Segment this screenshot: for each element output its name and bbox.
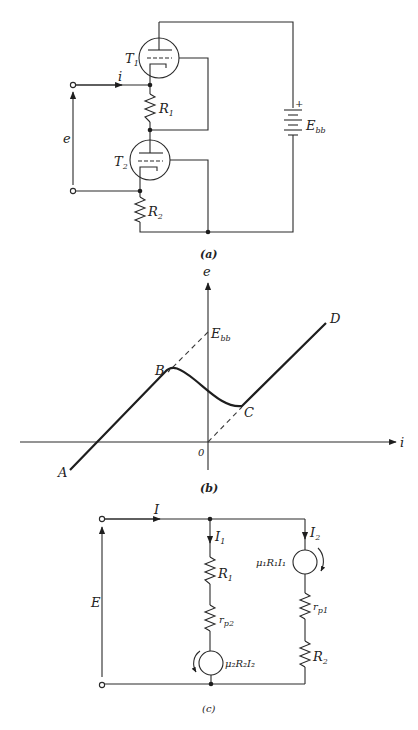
resistor-rp1-icon xyxy=(300,593,310,619)
caption-c: (c) xyxy=(202,703,216,714)
label-ebb: Ebb xyxy=(210,326,231,343)
label-t2: T2 xyxy=(114,154,128,171)
caption-b: (b) xyxy=(200,482,218,495)
junction-node xyxy=(148,83,153,88)
dependent-source-2-icon xyxy=(199,651,223,675)
label-origin: 0 xyxy=(198,447,205,458)
resistor-r2-icon xyxy=(135,197,145,222)
label-current-i: i xyxy=(118,69,122,84)
label-rp1: rp1 xyxy=(313,601,328,615)
vacuum-tube-t1-icon xyxy=(139,22,179,78)
input-terminal-top xyxy=(99,516,104,521)
input-terminal-bottom xyxy=(99,682,104,687)
label-source-1: μ₁R₁I₁ xyxy=(256,557,286,568)
label-point-d: D xyxy=(329,311,341,326)
figure-canvas: T1 T2 R1 R2 i e Ebb + (a) e i 0 Ebb A B … xyxy=(0,0,418,730)
resistor-rp2-icon xyxy=(205,605,215,631)
label-current-i2: I2 xyxy=(309,525,320,542)
resistor-r1-icon xyxy=(205,557,215,584)
label-voltage-e: E xyxy=(90,595,101,610)
dashed-line-origin-c xyxy=(208,407,242,442)
junction-node xyxy=(209,682,214,687)
label-r1: R1 xyxy=(158,101,174,118)
label-current-i1: I1 xyxy=(214,529,225,546)
input-terminal-top xyxy=(70,82,75,87)
label-voltage-e: e xyxy=(63,131,71,146)
junction-node xyxy=(206,230,211,235)
label-point-a: A xyxy=(57,465,67,480)
dashed-line-ebb-b xyxy=(168,332,208,372)
junction-node xyxy=(138,189,143,194)
vacuum-tube-t2-icon xyxy=(130,130,170,180)
resistor-r1-icon xyxy=(145,94,155,122)
label-axis-e: e xyxy=(203,264,211,279)
label-t1: T1 xyxy=(125,51,139,68)
dependent-source-1-icon xyxy=(293,550,317,574)
label-current-i-total: I xyxy=(153,502,160,517)
label-source-2: μ₂R₂I₂ xyxy=(225,658,255,669)
label-rp2: rp2 xyxy=(219,614,234,628)
label-r1: R1 xyxy=(217,566,233,583)
label-r2: R2 xyxy=(147,204,163,221)
junction-node xyxy=(148,128,153,133)
label-axis-i: i xyxy=(400,435,404,450)
resistor-r2-icon xyxy=(300,641,310,667)
input-terminal-bottom xyxy=(70,188,75,193)
caption-a: (a) xyxy=(200,248,218,261)
junction-node xyxy=(208,517,213,522)
rotation-arrow-icon xyxy=(318,548,323,571)
circuit-c: I I1 I2 E R1 rp2 rp1 R2 μ₁R₁I₁ μ₂R₂I₂ (c… xyxy=(90,502,328,714)
graph-b: e i 0 Ebb A B C D (b) xyxy=(20,264,404,495)
label-point-b: B xyxy=(154,363,165,378)
label-r2: R2 xyxy=(312,649,328,666)
battery-icon xyxy=(284,110,302,135)
label-ebb: Ebb xyxy=(305,118,326,135)
circuit-a: T1 T2 R1 R2 i e Ebb + (a) xyxy=(63,22,326,261)
label-point-c: C xyxy=(244,405,254,420)
label-battery-plus: + xyxy=(295,98,303,109)
